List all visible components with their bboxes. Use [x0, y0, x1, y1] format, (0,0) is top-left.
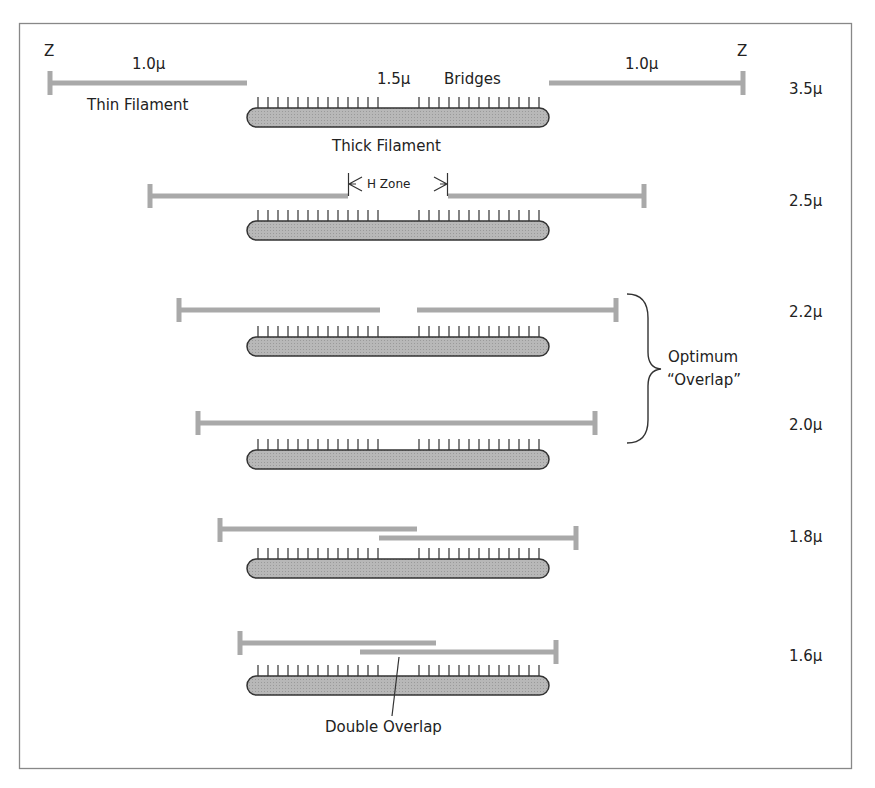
length-label-2-2: 2.2μ: [789, 305, 822, 320]
double-overlap-label: Double Overlap: [325, 720, 442, 735]
length-label-1-8: 1.8μ: [789, 530, 822, 545]
bridges-label: Bridges: [444, 72, 501, 87]
z-line-right-label: Z: [737, 44, 747, 59]
row-1-6: [240, 631, 556, 716]
h-zone-label: H Zone: [367, 178, 410, 190]
row-1-8: [220, 518, 576, 578]
z-line-left-label: Z: [44, 44, 54, 59]
optimum-brace: [627, 294, 661, 443]
length-label-1-6: 1.6μ: [789, 649, 822, 664]
length-label-2-5: 2.5μ: [789, 194, 822, 209]
overlap-label: “Overlap”: [667, 373, 741, 388]
thick-length-label: 1.5μ: [377, 72, 410, 87]
row-2-0: [198, 411, 595, 469]
length-label-3-5: 3.5μ: [789, 82, 822, 97]
row-2-2: [179, 298, 616, 356]
length-label-2-0: 2.0μ: [789, 418, 822, 433]
thick-filament-label: Thick Filament: [332, 139, 441, 154]
sarcomere-diagram: [0, 0, 875, 788]
optimum-label: Optimum: [668, 350, 738, 365]
thin-filament-label: Thin Filament: [87, 98, 188, 113]
thin-length-right-label: 1.0μ: [625, 57, 658, 72]
thin-length-left-label: 1.0μ: [132, 57, 165, 72]
frame-border: [20, 24, 852, 769]
